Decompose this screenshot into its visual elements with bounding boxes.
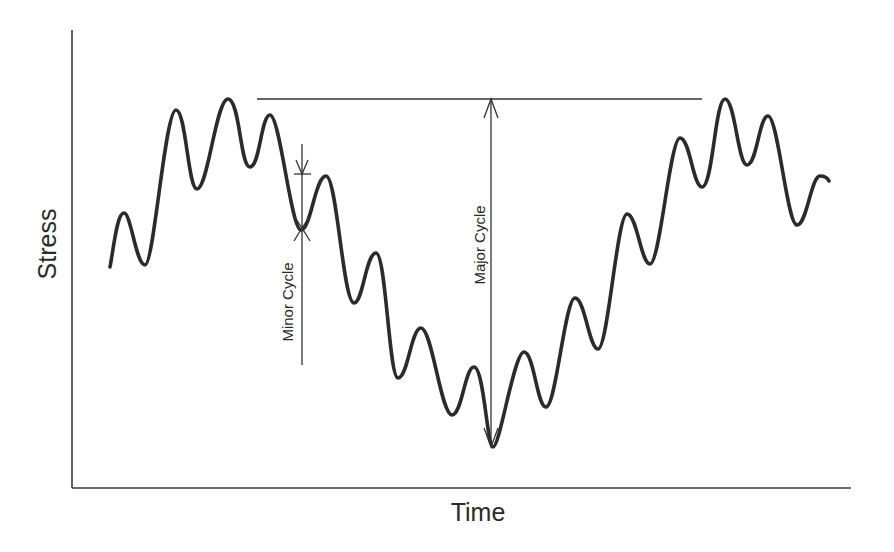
minor-cycle-label: Minor Cycle	[279, 262, 296, 341]
x-axis-label: Time	[451, 498, 506, 526]
major-cycle-label: Major Cycle	[471, 205, 488, 284]
y-axis-label: Stress	[33, 209, 61, 280]
stress-waveform	[110, 99, 829, 447]
minor-cycle-annotation: Minor Cycle	[279, 144, 311, 365]
stress-time-diagram: Stress Time Minor Cycle Major Cycle	[0, 0, 894, 552]
